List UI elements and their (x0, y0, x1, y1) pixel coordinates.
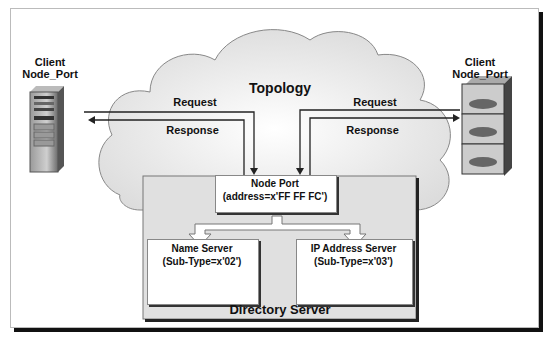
right-client-label-1: Client (450, 56, 510, 68)
left-client-label-2: Node_Port (20, 68, 80, 80)
left-response-label: Response (155, 124, 230, 136)
tower-server-icon (30, 86, 64, 172)
right-request-label: Request (340, 96, 410, 108)
left-client-label-1: Client (20, 56, 80, 68)
name-server-label-1: Name Server (147, 243, 257, 254)
node-port-label-1: Node Port (215, 178, 335, 189)
rack-storage-icon (462, 76, 512, 176)
left-request-label: Request (160, 96, 230, 108)
diagram-graphics (0, 0, 552, 337)
ip-server-label-1: IP Address Server (296, 243, 411, 254)
right-client-label-2: Node_Port (450, 68, 510, 80)
node-port-label-2: (address=x'FF FF FC') (215, 191, 335, 202)
directory-server-label: Directory Server (200, 302, 360, 317)
ip-server-label-2: (Sub-Type=x'03') (296, 256, 411, 267)
right-response-label: Response (335, 124, 410, 136)
name-server-label-2: (Sub-Type=x'02') (147, 256, 257, 267)
topology-label: Topology (240, 80, 320, 96)
